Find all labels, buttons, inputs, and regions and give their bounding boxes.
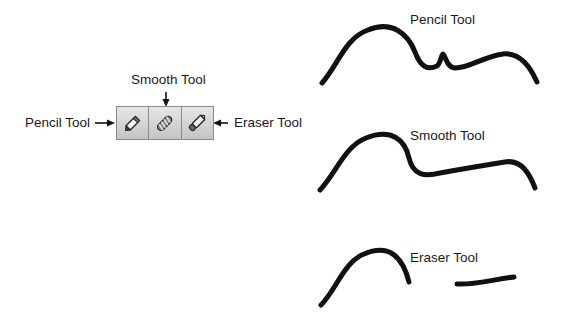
arrow-eraser-icon	[213, 120, 228, 127]
diagram-canvas	[0, 0, 563, 321]
pencil-stroke-example	[322, 27, 537, 83]
arrow-smooth-icon	[163, 92, 170, 107]
smooth-tool-button[interactable]	[149, 107, 181, 139]
eraser-stroke-part2	[457, 277, 514, 284]
example-label-smooth: Smooth Tool	[410, 128, 485, 144]
smooth-icon	[153, 111, 177, 135]
eraser-tool-button[interactable]	[182, 107, 213, 139]
eraser-stroke-part1	[321, 250, 409, 305]
pencil-tool-button[interactable]	[117, 107, 149, 139]
arrow-pencil-icon	[95, 120, 115, 127]
example-label-pencil: Pencil Tool	[410, 12, 475, 28]
pencil-icon	[121, 111, 145, 135]
eraser-icon	[185, 111, 209, 135]
tool-group-toolbar	[116, 106, 214, 140]
example-label-eraser: Eraser Tool	[410, 250, 478, 266]
